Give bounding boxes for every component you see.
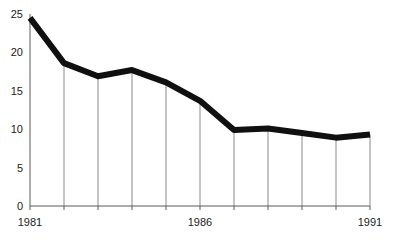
y-tick-label: 15: [11, 85, 23, 97]
y-axis-tick-labels: 2520151050: [11, 8, 23, 212]
y-tick-label: 10: [11, 123, 23, 135]
y-tick-label: 5: [17, 162, 23, 174]
x-tick-label: 1986: [188, 216, 212, 228]
chart-canvas: 2520151050 198119861991: [0, 0, 402, 247]
x-tick-label: 1991: [358, 216, 382, 228]
y-tick-label: 0: [17, 200, 23, 212]
line-chart: 2520151050 198119861991: [0, 0, 402, 247]
x-tick-label: 1981: [18, 216, 42, 228]
y-tick-label: 25: [11, 8, 23, 20]
x-axis-tick-labels: 198119861991: [18, 216, 382, 228]
y-tick-label: 20: [11, 46, 23, 58]
x-axis-tick-marks: [30, 206, 370, 210]
